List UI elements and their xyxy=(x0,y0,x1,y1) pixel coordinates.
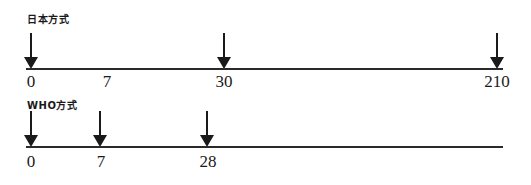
day-label: 7 xyxy=(103,73,112,90)
schedule-title-who: WHO方式 xyxy=(27,97,77,112)
arrow-down-icon xyxy=(200,111,214,148)
arrow-down-icon xyxy=(217,33,231,70)
arrow-down-icon xyxy=(93,111,107,148)
day-label: 0 xyxy=(27,73,36,90)
arrow-down-icon xyxy=(24,33,38,70)
arrow-down-icon xyxy=(24,111,38,148)
timeline-axis-japan xyxy=(26,68,503,70)
day-label: 0 xyxy=(27,153,36,170)
day-label: 28 xyxy=(200,153,217,170)
schedule-title-japan: 日本方式 xyxy=(27,11,69,26)
arrow-down-icon xyxy=(490,33,504,70)
day-label: 30 xyxy=(216,73,233,90)
day-label: 7 xyxy=(97,153,106,170)
timeline-axis-who xyxy=(26,146,503,148)
day-label: 210 xyxy=(484,73,510,90)
